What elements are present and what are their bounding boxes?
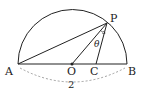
label-diameter: 2 <box>68 79 74 90</box>
semicircle-diagram: A B O C P θ 2 <box>0 0 143 91</box>
label-theta: θ <box>94 39 100 49</box>
label-a: A <box>4 65 14 78</box>
label-o: O <box>67 65 76 78</box>
angle-mark-1 <box>101 31 105 32</box>
label-p: P <box>110 12 118 25</box>
label-b: B <box>128 65 136 78</box>
label-c: C <box>90 65 98 78</box>
